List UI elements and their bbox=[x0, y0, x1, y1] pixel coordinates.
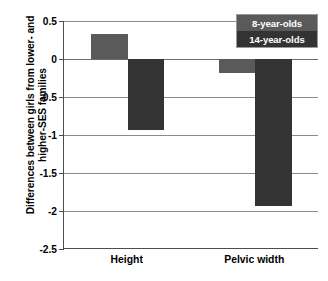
bar-pelvic-width-14-year-olds bbox=[255, 59, 292, 206]
x-tick-label-height: Height bbox=[111, 254, 143, 265]
bar-pelvic-width-8-year-olds bbox=[219, 59, 256, 73]
legend: 8-year-olds 14-year-olds bbox=[236, 14, 318, 48]
y-tick-mark--1 bbox=[59, 135, 64, 136]
y-tick-label--1: -1 bbox=[48, 130, 57, 141]
y-axis-tick-labels: 0.50-0.5-1-1.5-2-2.5 bbox=[24, 0, 57, 281]
y-tick-label-0.5: 0.5 bbox=[43, 16, 57, 27]
y-tick-mark--2.5 bbox=[59, 249, 64, 250]
y-tick-mark-0 bbox=[59, 59, 64, 60]
bar-height-14-year-olds bbox=[128, 59, 165, 130]
y-tick-label-0: 0 bbox=[51, 54, 57, 65]
legend-item-14-year-olds: 14-year-olds bbox=[237, 31, 317, 47]
x-tick-label-pelvic-width: Pelvic width bbox=[224, 254, 284, 265]
legend-label-8-year-olds: 8-year-olds bbox=[252, 18, 302, 29]
y-tick-mark--1.5 bbox=[59, 173, 64, 174]
y-tick-mark-0.5 bbox=[59, 21, 64, 22]
legend-label-14-year-olds: 14-year-olds bbox=[249, 34, 304, 45]
bar-chart-figure: Differences between girls from lower- an… bbox=[0, 0, 328, 281]
y-tick-label--2: -2 bbox=[48, 206, 57, 217]
y-tick-label--1.5: -1.5 bbox=[39, 168, 57, 179]
y-tick-mark--2 bbox=[59, 211, 64, 212]
legend-item-8-year-olds: 8-year-olds bbox=[237, 15, 317, 31]
y-tick-mark--0.5 bbox=[59, 97, 64, 98]
gridline--2 bbox=[64, 211, 318, 212]
y-tick-label--0.5: -0.5 bbox=[39, 92, 57, 103]
y-tick-label--2.5: -2.5 bbox=[39, 244, 57, 255]
plot-area bbox=[63, 21, 318, 249]
bar-height-8-year-olds bbox=[91, 34, 128, 59]
